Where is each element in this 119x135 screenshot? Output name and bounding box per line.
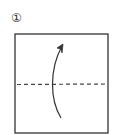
fold-arrow-icon [53,44,64,118]
origami-step-diagram [0,0,119,135]
valley-fold-line [17,84,106,85]
